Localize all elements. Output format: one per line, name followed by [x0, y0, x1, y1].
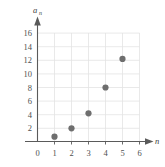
- data-point-1: [51, 134, 57, 140]
- y-tick-label-6: 6: [28, 96, 32, 106]
- y-tick-label-10: 10: [24, 69, 33, 79]
- y-tick-label-14: 14: [24, 42, 33, 52]
- y-axis-label-subscript: n: [39, 10, 42, 16]
- data-point-5: [119, 56, 125, 62]
- x-tick-label-1: 1: [52, 148, 56, 158]
- sequence-scatter-figure: 0 1 2 3 4 5 6 2 4 6 8 10 12 14 16 a n n: [0, 0, 165, 167]
- y-tick-label-16: 16: [24, 28, 33, 38]
- axis-titles: a n n: [33, 5, 159, 146]
- y-tick-labels: 2 4 6 8 10 12 14 16: [24, 28, 33, 133]
- data-point-2: [68, 125, 74, 131]
- y-tick-label-12: 12: [24, 55, 33, 65]
- y-axis: [34, 17, 41, 142]
- x-tick-label-0: 0: [35, 148, 39, 158]
- y-tick-label-8: 8: [28, 83, 32, 93]
- y-axis-label: a: [33, 5, 37, 15]
- x-tick-label-4: 4: [103, 148, 108, 158]
- x-tick-label-6: 6: [137, 148, 141, 158]
- arrow-up-icon: [34, 17, 41, 26]
- data-point-3: [85, 110, 91, 116]
- x-axis: [25, 138, 154, 144]
- vertical-gridlines: [55, 33, 140, 141]
- y-tick-label-2: 2: [28, 123, 32, 133]
- x-tick-labels: 0 1 2 3 4 5 6: [35, 148, 141, 158]
- x-tick-label-5: 5: [120, 148, 124, 158]
- arrow-right-icon: [145, 138, 154, 144]
- x-tick-label-3: 3: [86, 148, 90, 158]
- x-axis-label: n: [155, 136, 159, 146]
- x-tick-label-2: 2: [69, 148, 73, 158]
- y-tick-label-4: 4: [28, 110, 33, 120]
- plot-svg: 0 1 2 3 4 5 6 2 4 6 8 10 12 14 16 a n n: [0, 0, 165, 167]
- data-point-4: [102, 84, 108, 90]
